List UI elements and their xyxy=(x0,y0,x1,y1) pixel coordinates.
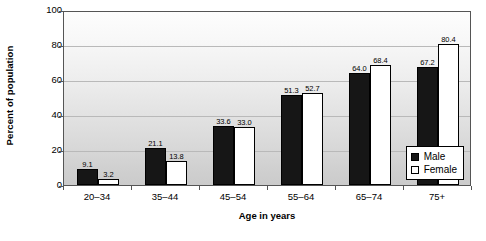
bar-group: 64.068.4 xyxy=(336,12,404,185)
plot-area: 9.13.221.113.833.633.051.352.764.068.467… xyxy=(63,11,471,186)
bar-pair: 51.352.7 xyxy=(268,12,336,185)
x-axis-tick-mark xyxy=(471,186,472,190)
bar-female: 52.7 xyxy=(302,93,323,185)
legend-item-female: Female xyxy=(411,163,457,176)
bar-value-label: 33.6 xyxy=(216,118,231,126)
legend-label-female: Female xyxy=(424,164,457,175)
bar-group: 21.113.8 xyxy=(132,12,200,185)
legend-swatch-male-icon xyxy=(411,153,419,161)
bar-pair: 9.13.2 xyxy=(64,12,132,185)
bar-pair: 21.113.8 xyxy=(132,12,200,185)
legend-swatch-female-icon xyxy=(411,166,419,174)
bar-female: 68.4 xyxy=(370,65,391,185)
y-axis-tick-label: 100 xyxy=(32,5,62,15)
x-axis-title: Age in years xyxy=(63,210,471,221)
bar-female: 13.8 xyxy=(166,161,187,185)
bar-value-label: 13.8 xyxy=(169,153,184,161)
x-axis-tick-mark xyxy=(267,186,268,190)
bar-group: 33.633.0 xyxy=(200,12,268,185)
bar-female: 3.2 xyxy=(98,179,119,185)
legend-item-male: Male xyxy=(411,150,457,163)
x-axis-tick-label: 35–44 xyxy=(152,191,178,202)
bar-value-label: 68.4 xyxy=(373,57,388,65)
x-axis-tick-mark xyxy=(199,186,200,190)
bar-male: 9.1 xyxy=(77,169,98,185)
x-axis-tick-mark xyxy=(63,186,64,190)
bar-pair: 33.633.0 xyxy=(200,12,268,185)
legend-label-male: Male xyxy=(424,151,446,162)
y-axis-tick-label: 20 xyxy=(32,145,62,155)
y-axis-tick-label: 60 xyxy=(32,75,62,85)
bar-male: 33.6 xyxy=(213,126,234,185)
bar-value-label: 21.1 xyxy=(148,140,163,148)
x-axis-tick-label: 45–54 xyxy=(220,191,246,202)
x-axis-tick-label: 20–34 xyxy=(84,191,110,202)
bar-group: 51.352.7 xyxy=(268,12,336,185)
bar-female: 33.0 xyxy=(234,127,255,185)
bar-value-label: 9.1 xyxy=(82,161,92,169)
bar-value-label: 67.2 xyxy=(420,59,435,67)
x-axis-tick-mark xyxy=(403,186,404,190)
bar-male: 21.1 xyxy=(145,148,166,185)
bar-value-label: 3.2 xyxy=(103,171,113,179)
y-axis-tick-label: 80 xyxy=(32,40,62,50)
bar-group: 9.13.2 xyxy=(64,12,132,185)
x-axis-tick-mark xyxy=(131,186,132,190)
y-axis-tick-label: 0 xyxy=(32,180,62,190)
bar-male: 64.0 xyxy=(349,73,370,185)
legend: Male Female xyxy=(406,146,464,180)
x-axis-tick-mark xyxy=(335,186,336,190)
bar-value-label: 52.7 xyxy=(305,85,320,93)
bar-chart: Percent of population 020406080100 9.13.… xyxy=(0,0,486,241)
bar-pair: 64.068.4 xyxy=(336,12,404,185)
bar-value-label: 33.0 xyxy=(237,119,252,127)
y-axis-title: Percent of population xyxy=(2,0,18,190)
bar-value-label: 51.3 xyxy=(284,87,299,95)
x-axis-tick-label: 65–74 xyxy=(356,191,382,202)
bar-male: 51.3 xyxy=(281,95,302,185)
x-axis-tick-label: 55–64 xyxy=(288,191,314,202)
bar-value-label: 64.0 xyxy=(352,65,367,73)
x-axis-tick-label: 75+ xyxy=(429,191,445,202)
y-axis-tick-label: 40 xyxy=(32,110,62,120)
bar-value-label: 80.4 xyxy=(441,36,456,44)
